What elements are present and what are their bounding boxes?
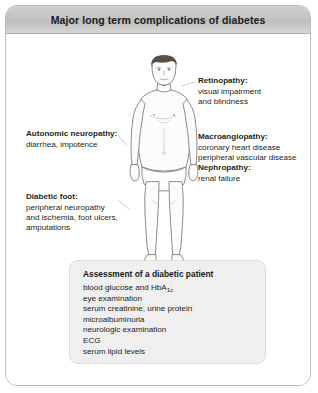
annotation-line: peripheral neuropathy [26,203,118,213]
list-item: microalbuminuria [83,315,265,326]
annotation-retinopathy: Retinopathy: visual impairment and blind… [198,76,261,107]
diagram-frame: Major long term complications of diabete… [5,5,311,386]
annotation-diabetic-foot: Diabetic foot: peripheral neuropathy and… [26,192,118,234]
annotation-line: amputations [26,223,118,233]
list-item: serum creatinine, urine protein [83,304,265,315]
annotation-heading: Macroangiopathy: [198,132,297,142]
assessment-heading: Assessment of a diabetic patient [83,269,265,279]
assessment-list: blood glucose and HbA1c eye examination … [83,283,265,357]
page-title: Major long term complications of diabete… [6,6,310,33]
annotation-autonomic-neuropathy: Autonomic neuropathy: diarrhea, impotenc… [26,129,117,150]
annotation-line: diarrhea, impotence [26,140,117,150]
annotation-line: renal failure [198,174,251,184]
annotation-line: visual impairment [198,87,261,97]
list-item: serum lipid levels [83,347,265,358]
list-item: eye examination [83,294,265,305]
annotation-heading: Retinopathy: [198,76,261,86]
list-item: neurologic examination [83,325,265,336]
subscript: 1c [167,286,174,293]
annotation-heading: Nephropathy: [198,163,251,173]
assessment-panel: Assessment of a diabetic patient blood g… [69,260,266,364]
list-item: ECG [83,336,265,347]
annotation-line: and blindness [198,97,261,107]
annotation-line: and ischemia, foot ulcers, [26,213,118,223]
annotation-nephropathy: Nephropathy: renal failure [198,163,251,184]
annotation-heading: Diabetic foot: [26,192,118,202]
list-item: blood glucose and HbA1c [83,283,265,294]
annotation-line: peripheral vascular disease [198,153,297,163]
annotation-heading: Autonomic neuropathy: [26,129,117,139]
anatomical-male-figure [118,54,210,264]
diagram-canvas: Retinopathy: visual impairment and blind… [6,34,310,386]
diagram-title-bar: Major long term complications of diabete… [6,6,310,34]
annotation-macroangiopathy: Macroangiopathy: coronary heart disease … [198,132,297,163]
annotation-line: coronary heart disease [198,143,297,153]
